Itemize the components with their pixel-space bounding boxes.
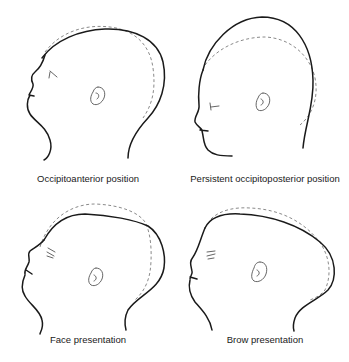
ear bbox=[252, 262, 267, 282]
panel-persistent-occipitoposterior bbox=[195, 17, 316, 156]
ear bbox=[256, 93, 270, 111]
panel-label-face-presentation: Face presentation bbox=[50, 334, 126, 345]
panel-label-occipitoanterior: Occipitoanterior position bbox=[37, 173, 139, 184]
face-profile bbox=[195, 70, 232, 156]
dashed-head-outline bbox=[205, 37, 316, 125]
dashed-head-outline bbox=[211, 208, 329, 300]
panel-face-presentation bbox=[22, 204, 164, 334]
eye bbox=[47, 248, 55, 258]
solid-head-outline bbox=[205, 214, 334, 331]
panel-label-persistent-occipitoposterior: Persistent occipitoposterior position bbox=[190, 173, 339, 184]
ear bbox=[91, 87, 105, 105]
eye bbox=[207, 251, 215, 259]
solid-head-outline bbox=[44, 214, 164, 330]
panel-brow-presentation bbox=[189, 208, 334, 331]
face-profile bbox=[22, 240, 44, 334]
eye bbox=[49, 71, 57, 78]
face-profile bbox=[27, 55, 51, 160]
panel-label-brow-presentation: Brow presentation bbox=[227, 334, 304, 345]
eye bbox=[210, 103, 219, 110]
panel-occipitoanterior bbox=[27, 26, 164, 160]
ear bbox=[89, 268, 103, 286]
face-profile bbox=[189, 228, 212, 330]
solid-head-outline bbox=[203, 17, 313, 148]
